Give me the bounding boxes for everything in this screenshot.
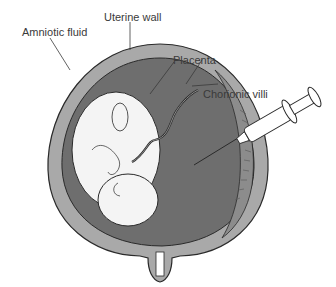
- amniotic-fluid-label: Amniotic fluid: [22, 27, 87, 38]
- uterine-wall-label: Uterine wall: [104, 12, 161, 23]
- cvs-diagram: [0, 0, 336, 287]
- placenta-label: Placenta: [173, 55, 216, 66]
- chorionic-villi-label: Chorionic villi: [203, 89, 268, 100]
